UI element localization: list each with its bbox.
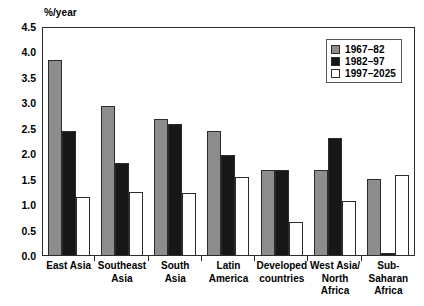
bar xyxy=(115,163,129,256)
y-axis-tick-label: 2.0 xyxy=(21,148,36,160)
bar xyxy=(154,119,168,256)
y-axis-tick-label: 2.5 xyxy=(21,123,36,135)
x-axis-category-label: East Asia xyxy=(42,260,95,298)
legend-label: 1967–82 xyxy=(345,44,385,55)
legend-item: 1967–82 xyxy=(331,43,396,55)
y-axis-tick-label: 1.5 xyxy=(21,174,36,186)
bar xyxy=(129,192,143,256)
legend-swatch-icon xyxy=(331,57,340,66)
y-axis-tick-label: 4.5 xyxy=(21,21,36,33)
bar xyxy=(48,60,62,256)
y-axis-tick-label: 3.0 xyxy=(21,97,36,109)
y-axis: 4.54.03.53.02.52.01.51.00.50.0 xyxy=(0,27,42,256)
x-axis-category-label: Developed countries xyxy=(255,260,308,298)
bar xyxy=(168,124,182,256)
y-axis-tick-label: 0.0 xyxy=(21,250,36,262)
x-axis-labels: East AsiaSoutheast AsiaSouth AsiaLatin A… xyxy=(42,260,415,298)
bar xyxy=(207,131,221,256)
legend-item: 1982–97 xyxy=(331,55,396,67)
y-axis-tick-label: 3.5 xyxy=(21,72,36,84)
bar xyxy=(182,193,196,256)
bar xyxy=(381,253,395,256)
bar xyxy=(289,222,303,256)
bar xyxy=(314,170,328,257)
bar xyxy=(261,170,275,257)
x-axis-category-label: Latin America xyxy=(202,260,255,298)
bar xyxy=(101,106,115,256)
bar xyxy=(221,155,235,256)
bar xyxy=(395,175,409,256)
y-axis-unit-label: %/year xyxy=(44,7,77,18)
bar-group xyxy=(255,27,308,256)
x-axis-category-label: South Asia xyxy=(149,260,202,298)
bar xyxy=(342,201,356,256)
bar-group xyxy=(42,27,95,256)
bar xyxy=(76,197,90,256)
y-axis-tick-label: 4.0 xyxy=(21,46,36,58)
legend-label: 1997–2025 xyxy=(345,68,396,79)
bar-chart: %/year 4.54.03.53.02.52.01.51.00.50.0 Ea… xyxy=(0,0,424,306)
bar xyxy=(275,170,289,256)
bar xyxy=(235,177,249,256)
legend-swatch-icon xyxy=(331,69,340,78)
y-axis-tick-label: 1.0 xyxy=(21,199,36,211)
x-axis-category-label: West Asia/ North Africa xyxy=(308,260,361,298)
bar xyxy=(367,179,381,256)
bar xyxy=(328,138,342,256)
chart-legend: 1967–821982–971997–2025 xyxy=(326,39,402,83)
x-axis-category-label: Sub- Saharan Africa xyxy=(362,260,415,298)
bar-group xyxy=(95,27,148,256)
y-axis-tick-label: 0.5 xyxy=(21,225,36,237)
legend-label: 1982–97 xyxy=(345,56,385,67)
x-axis-category-label: Southeast Asia xyxy=(95,260,148,298)
bar xyxy=(62,131,76,256)
bar-group xyxy=(202,27,255,256)
legend-item: 1997–2025 xyxy=(331,67,396,79)
bar-group xyxy=(149,27,202,256)
legend-swatch-icon xyxy=(331,45,340,54)
